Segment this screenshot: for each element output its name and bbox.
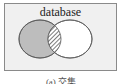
venn-diagram [0,0,122,84]
figure-caption: (a) 交集 [0,77,122,84]
